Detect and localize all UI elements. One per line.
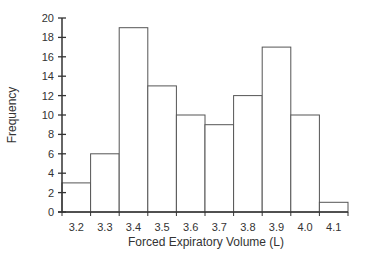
y-tick-label: 12 bbox=[42, 90, 54, 102]
y-tick-label: 10 bbox=[42, 109, 54, 121]
histogram-bar bbox=[176, 115, 205, 212]
histogram-bar bbox=[262, 47, 291, 212]
histogram-bar bbox=[91, 154, 120, 212]
y-axis: 02468101214161820 bbox=[42, 12, 66, 218]
histogram-bar bbox=[119, 28, 148, 212]
histogram-bar bbox=[234, 96, 263, 212]
x-tick-label: 4.1 bbox=[326, 221, 341, 233]
y-tick-label: 14 bbox=[42, 70, 54, 82]
y-axis-title: Frequency bbox=[5, 87, 19, 144]
y-tick-label: 8 bbox=[48, 128, 54, 140]
x-tick-label: 3.2 bbox=[69, 221, 84, 233]
y-tick-label: 6 bbox=[48, 148, 54, 160]
histogram-bar bbox=[291, 115, 320, 212]
histogram-chart: 02468101214161820 3.23.33.43.53.63.73.83… bbox=[0, 0, 371, 260]
y-tick-label: 16 bbox=[42, 51, 54, 63]
x-axis: 3.23.33.43.53.63.73.83.94.04.1 bbox=[58, 212, 348, 233]
x-tick-label: 3.5 bbox=[154, 221, 169, 233]
histogram-bar bbox=[148, 86, 177, 212]
y-tick-label: 18 bbox=[42, 31, 54, 43]
x-tick-label: 3.6 bbox=[183, 221, 198, 233]
x-tick-label: 3.8 bbox=[240, 221, 255, 233]
y-tick-label: 2 bbox=[48, 187, 54, 199]
y-tick-label: 20 bbox=[42, 12, 54, 24]
x-tick-label: 3.7 bbox=[212, 221, 227, 233]
y-tick-label: 0 bbox=[48, 206, 54, 218]
x-tick-label: 3.3 bbox=[97, 221, 112, 233]
x-tick-label: 3.4 bbox=[126, 221, 141, 233]
x-tick-label: 4.0 bbox=[297, 221, 312, 233]
histogram-bar bbox=[319, 202, 348, 212]
histogram-bar bbox=[62, 183, 91, 212]
bars-group bbox=[62, 28, 348, 212]
y-tick-label: 4 bbox=[48, 167, 54, 179]
histogram-bar bbox=[205, 125, 234, 212]
x-axis-title: Forced Expiratory Volume (L) bbox=[128, 235, 284, 249]
x-tick-label: 3.9 bbox=[269, 221, 284, 233]
